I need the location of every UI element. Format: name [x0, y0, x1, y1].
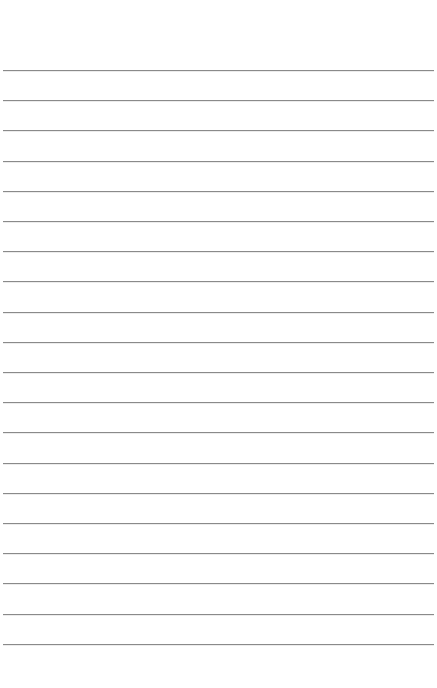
ruled-line: [3, 251, 434, 252]
ruled-line: [3, 553, 434, 554]
ruled-line: [3, 70, 434, 71]
ruled-line: [3, 312, 434, 313]
ruled-line: [3, 191, 434, 192]
ruled-line: [3, 614, 434, 615]
ruled-line: [3, 281, 434, 282]
notepad-page: [0, 0, 437, 688]
ruled-line: [3, 342, 434, 343]
ruled-line: [3, 221, 434, 222]
ruled-line: [3, 583, 434, 584]
ruled-line: [3, 100, 434, 101]
ruled-line: [3, 523, 434, 524]
ruled-line: [3, 130, 434, 131]
ruled-line: [3, 372, 434, 373]
ruled-line: [3, 493, 434, 494]
ruled-line: [3, 161, 434, 162]
ruled-line: [3, 644, 434, 645]
ruled-line: [3, 402, 434, 403]
ruled-line: [3, 463, 434, 464]
ruled-line: [3, 432, 434, 433]
